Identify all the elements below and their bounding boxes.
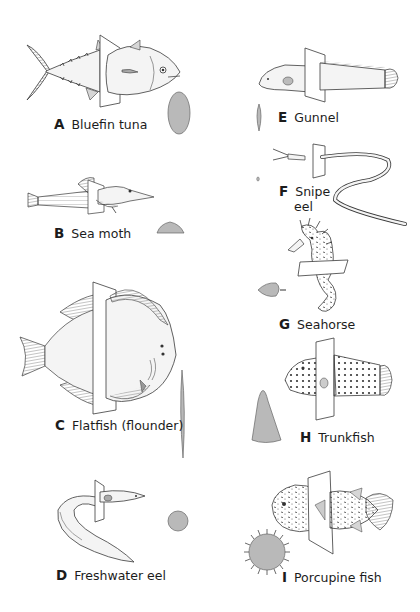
- label-snipe-eel: FSnipe eel: [279, 184, 349, 214]
- fish-cross-section-diagram: [0, 0, 420, 612]
- label-trunkfish: HTrunkfish: [300, 430, 375, 445]
- label-text-snipe: Snipe: [295, 184, 330, 199]
- label-text-bluefin-tuna: Bluefin tuna: [71, 117, 147, 132]
- label-text-eel: eel: [279, 199, 349, 214]
- label-seahorse: GSeahorse: [279, 317, 355, 332]
- label-text-flatfish: Flatfish (flounder): [72, 418, 183, 433]
- label-text-trunkfish: Trunkfish: [318, 430, 374, 445]
- label-letter-g: G: [279, 316, 290, 332]
- label-freshwater-eel: DFreshwater eel: [56, 568, 166, 583]
- label-porcupine-fish: IPorcupine fish: [282, 570, 382, 585]
- label-letter-b: B: [54, 225, 64, 241]
- label-letter-c: C: [55, 417, 65, 433]
- label-letter-i: I: [282, 569, 287, 585]
- label-letter-e: E: [278, 109, 287, 125]
- label-text-freshwater-eel: Freshwater eel: [74, 568, 166, 583]
- seahorse-illustration: [258, 218, 348, 311]
- label-bluefin-tuna: ABluefin tuna: [54, 117, 147, 132]
- sea-moth-illustration: [28, 178, 184, 233]
- label-text-gunnel: Gunnel: [294, 110, 339, 125]
- label-flatfish: CFlatfish (flounder): [55, 418, 183, 433]
- label-text-porcupine-fish: Porcupine fish: [294, 570, 382, 585]
- label-letter-f: F: [279, 183, 288, 199]
- label-text-sea-moth: Sea moth: [71, 226, 131, 241]
- freshwater-eel-illustration: [58, 480, 188, 562]
- label-sea-moth: BSea moth: [54, 226, 131, 241]
- label-gunnel: EGunnel: [278, 110, 339, 125]
- label-letter-d: D: [56, 567, 67, 583]
- porcupine-fish-illustration: [244, 471, 393, 575]
- label-text-seahorse: Seahorse: [297, 317, 355, 332]
- label-letter-a: A: [54, 116, 64, 132]
- label-letter-h: H: [300, 429, 311, 445]
- trunkfish-illustration: [252, 338, 392, 443]
